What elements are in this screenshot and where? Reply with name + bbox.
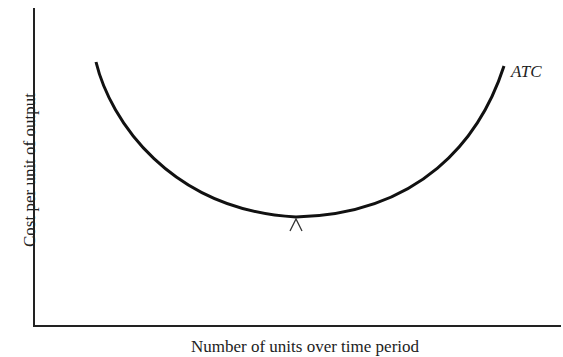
x-axis-label: Number of units over time period [140, 337, 470, 357]
y-axis-label: Cost per unit of output [20, 70, 40, 270]
atc-curve-label: ATC [511, 62, 542, 82]
minimum-marker-icon [290, 219, 302, 231]
atc-curve [96, 62, 504, 217]
